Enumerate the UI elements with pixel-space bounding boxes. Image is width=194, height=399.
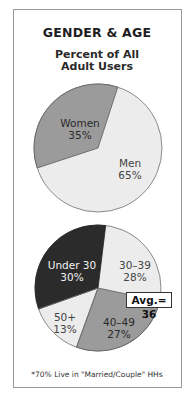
women-value: 35% — [50, 129, 110, 141]
average-age-badge: Avg.= 36 — [126, 292, 172, 308]
under30-value: 30% — [40, 271, 104, 283]
40-49-value: 27% — [96, 328, 142, 340]
50plus-value: 13% — [50, 323, 80, 335]
30-39-label: 30–39 28% — [112, 259, 158, 283]
men-label: Men 65% — [105, 157, 155, 181]
30-39-value: 28% — [112, 271, 158, 283]
under30-label-text: Under 30 — [40, 259, 104, 271]
women-label-text: Women — [50, 117, 110, 129]
footnote: *70% Live in "Married/Couple" HHs — [0, 370, 194, 379]
under30-label: Under 30 30% — [40, 259, 104, 283]
30-39-label-text: 30–39 — [112, 259, 158, 271]
40-49-label-text: 40–49 — [96, 316, 142, 328]
women-label: Women 35% — [50, 117, 110, 141]
men-label-text: Men — [105, 157, 155, 169]
50plus-label: 50+ 13% — [50, 311, 80, 335]
men-value: 65% — [105, 169, 155, 181]
40-49-label: 40–49 27% — [96, 316, 142, 340]
gender-pie — [34, 84, 162, 212]
50plus-label-text: 50+ — [50, 311, 80, 323]
